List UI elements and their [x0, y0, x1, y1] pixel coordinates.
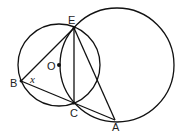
label-a: A	[112, 121, 120, 133]
segment-be	[21, 28, 74, 81]
center-o-dot	[57, 63, 61, 67]
point-e	[72, 26, 75, 29]
label-c: C	[70, 107, 78, 119]
geometry-diagram: E B C A O x	[0, 0, 187, 137]
label-e: E	[68, 14, 75, 26]
point-c	[72, 101, 75, 104]
angle-label-x: x	[29, 73, 35, 85]
label-b: B	[10, 77, 17, 89]
point-b	[20, 80, 23, 83]
label-o: O	[47, 60, 56, 72]
